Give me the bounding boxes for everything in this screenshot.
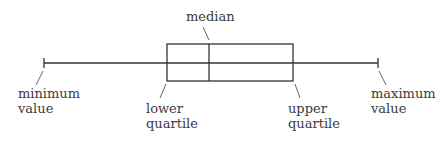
median-label: median	[186, 9, 235, 24]
label-line: value	[371, 101, 436, 116]
median-pointer	[203, 27, 209, 40]
upper-quartile-label: upper quartile	[288, 101, 340, 131]
label-line: lower	[146, 101, 198, 116]
upper-quartile-pointer	[295, 84, 300, 98]
label-line: quartile	[146, 116, 198, 131]
label-line: value	[18, 101, 80, 116]
minimum-pointer	[36, 71, 43, 85]
lower-quartile-pointer	[160, 84, 166, 98]
lower-quartile-label: lower quartile	[146, 101, 198, 131]
label-line: minimum	[18, 86, 80, 101]
label-line: maximum	[371, 86, 436, 101]
minimum-value-label: minimum value	[18, 86, 80, 116]
label-line: quartile	[288, 116, 340, 131]
maximum-value-label: maximum value	[371, 86, 436, 116]
maximum-pointer	[379, 71, 386, 85]
label-line: upper	[288, 101, 340, 116]
